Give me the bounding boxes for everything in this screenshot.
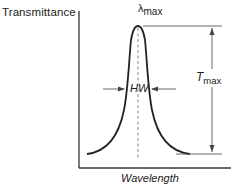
tmax-arrowhead-up xyxy=(210,28,215,35)
hw-arrowhead-right xyxy=(151,87,158,92)
hw-arrowhead-left xyxy=(118,87,125,92)
half-width-label: HW xyxy=(130,82,148,94)
t-max-label: Tmax xyxy=(196,69,221,87)
y-axis-label: Transmittance xyxy=(2,6,76,18)
t-subscript: max xyxy=(203,75,221,86)
lambda-max-label: λmax xyxy=(138,2,162,17)
tmax-arrowhead-down xyxy=(210,145,215,152)
x-axis-label: Wavelength xyxy=(121,172,179,184)
transmittance-diagram xyxy=(0,0,247,196)
lambda-subscript: max xyxy=(144,6,163,17)
